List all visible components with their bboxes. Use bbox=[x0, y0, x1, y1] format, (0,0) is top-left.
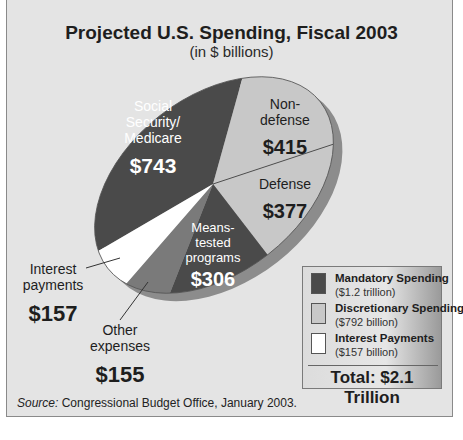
legend-divider bbox=[308, 365, 438, 366]
legend-item-discretionary: Discretionary Spending ($792 billion) bbox=[311, 302, 445, 332]
swatch-interest bbox=[311, 333, 326, 354]
label-non-defense: Non- defense $415 bbox=[250, 96, 320, 159]
source-text: Congressional Budget Office, January 200… bbox=[58, 396, 297, 410]
legend-item-mandatory: Mandatory Spending ($1.2 trillion) bbox=[311, 272, 445, 302]
source-note: Source: Congressional Budget Office, Jan… bbox=[17, 396, 297, 410]
legend: Mandatory Spending ($1.2 trillion) Discr… bbox=[302, 266, 442, 389]
legend-total: Total: $2.1 Trillion bbox=[303, 368, 441, 408]
label-defense: Defense $377 bbox=[250, 176, 320, 223]
label-other-expenses: Other expenses $155 bbox=[85, 322, 155, 387]
source-prefix: Source: bbox=[17, 396, 58, 410]
label-social-security: Social Security/ Medicare $743 bbox=[108, 98, 198, 178]
label-interest-payments: Interest payments $157 bbox=[18, 261, 88, 326]
swatch-discretionary bbox=[311, 303, 326, 324]
label-means-tested: Means- tested programs $306 bbox=[178, 221, 248, 291]
swatch-mandatory bbox=[311, 273, 326, 294]
legend-item-interest: Interest Payments ($157 billion) bbox=[311, 332, 445, 362]
